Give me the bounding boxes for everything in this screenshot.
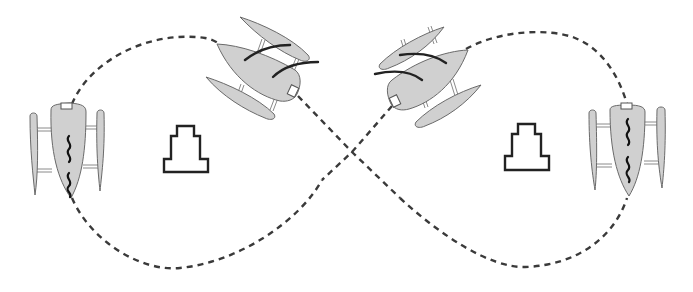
path-diagonal-down [298,96,400,198]
path-diagonal-up [322,106,392,180]
path-left-upper [72,37,220,104]
float-right [97,110,104,191]
float-left [589,110,597,190]
trajectory-path [72,32,627,268]
boat-right [589,103,665,196]
path-right-upper [466,32,627,104]
boat-left [30,103,104,198]
float-left [30,113,38,195]
path-right-lower [400,198,627,267]
sensor-icon [61,103,72,109]
boat-top-left [206,17,318,119]
figure-eight-diagram [0,0,693,292]
boat-top-right [375,26,481,127]
sensor-icon [621,103,632,109]
obstacle-left [164,126,208,172]
obstacle-right [505,124,549,170]
path-left-lower [72,180,322,268]
float-right [657,107,665,188]
